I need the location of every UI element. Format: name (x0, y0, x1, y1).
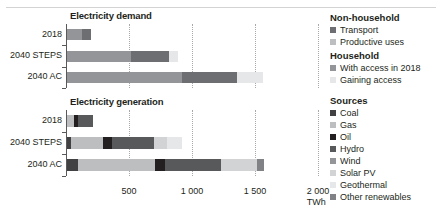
legend-label: With access in 2018 (340, 62, 421, 74)
chart-figure: Electricity demand 20182040 STEPS2040 AC… (0, 0, 442, 219)
panel-electricity-demand: Electricity demand 20182040 STEPS2040 AC (0, 10, 320, 90)
legend-heading-household: Household (330, 50, 442, 62)
legend-label: Coal (340, 107, 359, 119)
bar-row: 2018 (67, 115, 93, 127)
bar-row: 2040 STEPS (67, 137, 182, 149)
legend-label: Solar PV (340, 167, 376, 179)
legend-heading-sources: Sources (330, 95, 442, 107)
legend-item-productive-uses[interactable]: Productive uses (330, 36, 442, 48)
bar-row: 2018 (67, 29, 91, 40)
chart-legend: Non-householdTransportProductive usesHou… (330, 12, 442, 203)
bar-segment-transport (82, 29, 91, 40)
bar-segment-oil (155, 159, 166, 171)
bar-segment-hydro (78, 115, 94, 127)
bar-segment-gas (71, 137, 103, 149)
bar-segment-solar-pv (154, 137, 167, 149)
gridline-2000 (318, 24, 320, 88)
y-axis-tick (62, 67, 66, 68)
legend-swatch-other-renewables-icon (330, 194, 336, 200)
bar-segment-hydro (112, 137, 154, 149)
panel-title-demand: Electricity demand (70, 10, 152, 21)
bar-segment-with-access-2018 (67, 72, 182, 83)
legend-item-gaining-access[interactable]: Gaining access (330, 74, 442, 86)
legend-item-transport[interactable]: Transport (330, 24, 442, 36)
legend-label: Gas (340, 119, 357, 131)
bar-row: 2040 STEPS (67, 51, 178, 62)
gridline-2000 (318, 110, 320, 176)
x-axis-tick-label-1000: 1 000 (181, 186, 204, 197)
category-label-2040-steps: 2040 STEPS (10, 51, 62, 60)
legend-label: Geothermal (340, 179, 387, 191)
y-axis-tick (62, 45, 66, 46)
bar-segment-oil (103, 137, 112, 149)
legend-label: Hydro (340, 143, 364, 155)
legend-swatch-solar-pv-icon (330, 170, 336, 176)
x-axis-tick-label-2000: 2 000TWh (307, 186, 330, 208)
bar-segment-transport (131, 51, 169, 62)
bar-segment-with-access-2018 (67, 51, 131, 62)
legend-item-other-renewables[interactable]: Other renewables (330, 191, 442, 203)
y-axis-tick (62, 132, 66, 133)
legend-swatch-productive-uses-icon (330, 39, 336, 45)
panel-title-generation: Electricity generation (70, 96, 163, 107)
category-label-2018: 2018 (42, 30, 62, 39)
legend-label: Oil (340, 131, 351, 143)
bar-segment-gas (67, 115, 74, 127)
category-label-2018: 2018 (42, 116, 62, 125)
x-axis-labels: 5001 0001 5002 000TWh (66, 186, 318, 216)
category-label-2040-ac: 2040 AC (27, 72, 62, 81)
legend-heading-non-household: Non-household (330, 12, 442, 24)
legend-label: Productive uses (340, 36, 404, 48)
legend-item-coal[interactable]: Coal (330, 107, 442, 119)
bar-segment-gaining-access (169, 51, 178, 62)
bar-segment-with-access-2018 (67, 29, 82, 40)
y-axis-tick (62, 176, 66, 177)
legend-item-gas[interactable]: Gas (330, 119, 442, 131)
legend-item-wind[interactable]: Wind (330, 155, 442, 167)
bar-segment-other-renewables (257, 159, 265, 171)
legend-swatch-transport-icon (330, 27, 336, 33)
legend-swatch-with-access-2018-icon (330, 65, 336, 71)
legend-label: Wind (340, 155, 361, 167)
bar-segment-hydro (165, 159, 220, 171)
legend-swatch-oil-icon (330, 134, 336, 140)
category-label-2040-steps: 2040 STEPS (10, 138, 62, 147)
legend-item-with-access-2018[interactable]: With access in 2018 (330, 62, 442, 74)
legend-swatch-gas-icon (330, 122, 336, 128)
legend-swatch-gaining-access-icon (330, 77, 336, 83)
legend-label: Transport (340, 24, 378, 36)
bar-segment-gas (78, 159, 155, 171)
top-divider (6, 7, 436, 8)
bar-segment-transport (182, 72, 237, 83)
legend-swatch-coal-icon (330, 110, 336, 116)
plot-area-generation: 20182040 STEPS2040 AC (66, 110, 318, 176)
legend-label: Gaining access (340, 74, 402, 86)
legend-label: Other renewables (340, 191, 411, 203)
legend-item-hydro[interactable]: Hydro (330, 143, 442, 155)
panel-electricity-generation: Electricity generation 20182040 STEPS204… (0, 96, 320, 180)
bar-segment-solar-pv (221, 159, 257, 171)
x-axis-unit-label: TWh (307, 197, 330, 208)
category-label-2040-ac: 2040 AC (27, 160, 62, 169)
bar-segment-coal (67, 159, 78, 171)
legend-swatch-wind-icon (330, 158, 336, 164)
x-axis-tick-label-500: 500 (121, 186, 136, 197)
legend-item-geothermal[interactable]: Geothermal (330, 179, 442, 191)
x-axis-tick-label-1500: 1 500 (244, 186, 267, 197)
bar-row: 2040 AC (67, 159, 264, 171)
legend-swatch-geothermal-icon (330, 182, 336, 188)
legend-item-oil[interactable]: Oil (330, 131, 442, 143)
legend-item-solar-pv[interactable]: Solar PV (330, 167, 442, 179)
bar-segment-gaining-access (237, 72, 263, 83)
y-axis-tick (62, 88, 66, 89)
bar-row: 2040 AC (67, 72, 263, 83)
legend-spacer (330, 86, 442, 95)
legend-swatch-hydro-icon (330, 146, 336, 152)
bar-segment-geothermal (167, 137, 182, 149)
y-axis-tick (62, 154, 66, 155)
plot-area-demand: 20182040 STEPS2040 AC (66, 24, 318, 88)
